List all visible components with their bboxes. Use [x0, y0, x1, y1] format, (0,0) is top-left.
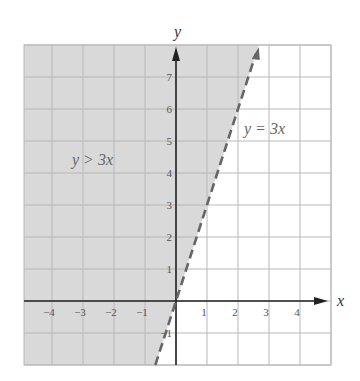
- y-tick-label: 3: [167, 199, 173, 211]
- x-tick-label: −4: [43, 306, 55, 318]
- y-tick-label: 1: [167, 263, 173, 275]
- x-tick-label: −2: [105, 306, 117, 318]
- y-tick-label: 5: [167, 135, 173, 147]
- x-tick-label: 2: [232, 306, 238, 318]
- y-tick-label: 4: [167, 167, 173, 179]
- x-tick-label: 1: [201, 306, 207, 318]
- line-equation-label: y = 3x: [242, 120, 285, 138]
- x-tick-label: 4: [294, 306, 300, 318]
- x-tick-label: −3: [74, 306, 86, 318]
- x-axis-arrow-icon: [314, 297, 328, 305]
- y-tick-label: 7: [167, 71, 173, 83]
- inequality-graph: −4−3−2−112341234567−1 y x y > 3x y = 3x: [0, 0, 360, 381]
- region-label: y > 3x: [70, 151, 113, 169]
- y-tick-label: 2: [167, 231, 173, 243]
- x-axis-label: x: [336, 292, 344, 309]
- y-axis-label: y: [172, 23, 182, 41]
- x-tick-label: 3: [263, 306, 269, 318]
- x-tick-label: −1: [136, 306, 148, 318]
- y-tick-label: 6: [167, 103, 173, 115]
